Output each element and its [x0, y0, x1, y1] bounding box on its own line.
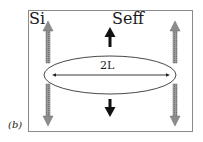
panel-label: (b) [8, 120, 22, 130]
right-up-arrow-icon [170, 21, 180, 63]
left-down-arrow-icon [43, 84, 53, 126]
label-si: Si [29, 11, 45, 27]
center-up-arrow-icon [105, 27, 116, 47]
label-length: 2L [100, 60, 114, 71]
diagram-figure: Si Seff 2L (b) [0, 0, 203, 142]
right-down-arrow-icon [170, 84, 180, 126]
label-seff: Seff [112, 11, 144, 27]
center-down-arrow-icon [105, 99, 116, 117]
